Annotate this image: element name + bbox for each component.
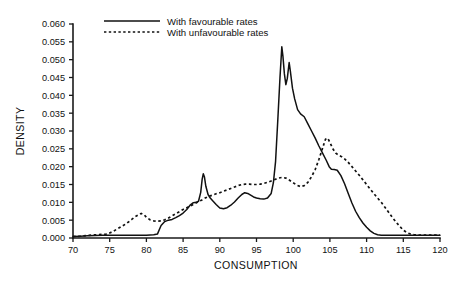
x-tick-label: 95 (251, 245, 261, 255)
y-tick-label: 0.020 (42, 162, 65, 172)
y-tick-label: 0.040 (42, 91, 65, 101)
y-axis-ticks: 0.0000.0050.0100.0150.0200.0250.0300.035… (42, 19, 73, 243)
y-tick-label: 0.005 (42, 216, 65, 226)
y-tick-label: 0.060 (42, 19, 65, 29)
x-tick-label: 90 (215, 245, 225, 255)
chart-canvas: 0.0000.0050.0100.0150.0200.0250.0300.035… (0, 0, 459, 281)
y-axis-title: DENSITY (14, 107, 26, 156)
y-tick-label: 0.000 (42, 233, 65, 243)
y-tick-label: 0.025 (42, 144, 65, 154)
legend-label-unfavourable: With unfavourable rates (167, 27, 269, 38)
y-tick-label: 0.050 (42, 55, 65, 65)
x-tick-label: 110 (359, 245, 374, 255)
chart-legend: With favourable rates With unfavourable … (104, 16, 269, 38)
y-tick-label: 0.045 (42, 73, 65, 83)
x-tick-label: 75 (105, 245, 115, 255)
x-axis-title: CONSUMPTION (214, 259, 298, 271)
density-chart-figure: 0.0000.0050.0100.0150.0200.0250.0300.035… (0, 0, 459, 281)
x-tick-label: 115 (396, 245, 411, 255)
x-tick-label: 85 (178, 245, 188, 255)
x-tick-label: 70 (68, 245, 78, 255)
y-tick-label: 0.010 (42, 198, 65, 208)
y-tick-label: 0.035 (42, 109, 65, 119)
y-tick-label: 0.015 (42, 180, 65, 190)
x-tick-label: 80 (141, 245, 151, 255)
y-tick-label: 0.030 (42, 126, 65, 136)
x-tick-label: 100 (286, 245, 301, 255)
y-tick-label: 0.055 (42, 37, 65, 47)
x-axis-ticks: 707580859095100105110115120 (68, 238, 448, 255)
legend-label-favourable: With favourable rates (167, 16, 258, 27)
x-tick-label: 120 (432, 245, 447, 255)
series-line-unfavourable (73, 138, 440, 236)
x-tick-label: 105 (322, 245, 337, 255)
